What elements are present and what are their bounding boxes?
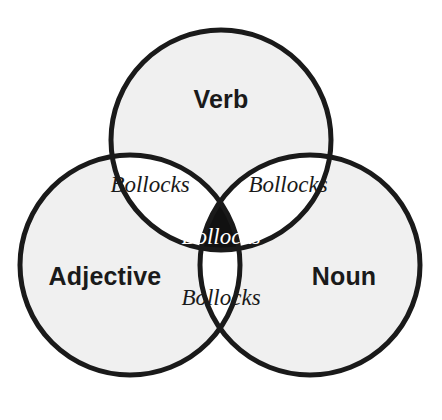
region-label-verb-noun: Bollocks bbox=[248, 172, 327, 197]
region-label-adjective-noun: Bollocks bbox=[181, 285, 260, 310]
venn-diagram-root: Verb Adjective Noun Bollocks Bollocks Bo… bbox=[0, 0, 442, 420]
set-label-noun: Noun bbox=[312, 262, 377, 290]
set-label-adjective: Adjective bbox=[49, 262, 162, 290]
region-label-verb-adjective-noun: Bollocks bbox=[181, 224, 260, 249]
set-label-verb: Verb bbox=[194, 85, 249, 113]
region-label-verb-adjective: Bollocks bbox=[110, 172, 189, 197]
venn-diagram-svg: Verb Adjective Noun Bollocks Bollocks Bo… bbox=[0, 0, 442, 420]
